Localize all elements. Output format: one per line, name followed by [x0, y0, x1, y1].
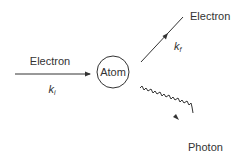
- incoming-arrow-icon: [85, 72, 91, 77]
- incoming-momentum-label: ki: [48, 83, 56, 96]
- atom-label: Atom: [100, 66, 126, 78]
- incoming-electron-label: Electron: [30, 55, 70, 67]
- photon-wave-line: [140, 86, 193, 113]
- outgoing-electron-label: Electron: [190, 10, 230, 22]
- outgoing-momentum-label: kf: [174, 40, 183, 53]
- photon-arrow-icon: [173, 114, 179, 120]
- photon-label: Photon: [188, 141, 223, 153]
- scattering-diagram: Electron ki Atom Electron kf Photon: [0, 0, 241, 163]
